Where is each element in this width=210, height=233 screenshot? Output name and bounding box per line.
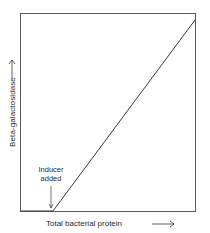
chart: Beta-galactosidase Inducer added Total b… [0, 0, 210, 233]
y-axis-label: Beta-galactosidase [8, 77, 17, 147]
annotation-arrow-icon [49, 186, 53, 208]
x-axis-label: Total bacterial protein [46, 219, 122, 228]
y-axis-arrow-icon [9, 60, 15, 78]
x-axis-arrow-icon [152, 221, 174, 227]
annotation-inducer-added: Inducer added [34, 165, 68, 183]
plot-area [0, 0, 210, 233]
annotation-line-2: added [34, 174, 68, 183]
annotation-line-1: Inducer [34, 165, 68, 174]
